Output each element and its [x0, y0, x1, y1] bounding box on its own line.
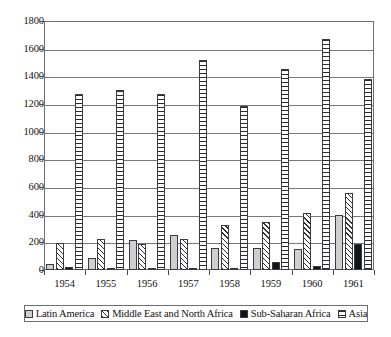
bar — [253, 248, 261, 270]
legend-label: Middle East and North Africa — [112, 308, 233, 319]
legend-swatch-icon — [101, 310, 109, 318]
bar — [221, 225, 229, 270]
y-axis-tick-label: 1600 — [6, 44, 44, 54]
x-axis-tick-mark — [85, 270, 86, 275]
x-axis-tick-mark — [168, 270, 169, 275]
bar — [138, 244, 146, 270]
bar-group — [127, 21, 168, 270]
x-axis: 19541955195619571958195919601961 — [44, 270, 374, 296]
legend-entry[interactable]: Middle East and North Africa — [101, 308, 233, 319]
bar — [354, 244, 362, 270]
bar — [97, 239, 105, 270]
legend-entry[interactable]: Sub-Saharan Africa — [240, 308, 331, 319]
y-axis-tick-label: 200 — [6, 237, 44, 247]
bar-group — [168, 21, 209, 270]
y-axis-tick-label: 1800 — [6, 16, 44, 26]
bar — [262, 222, 270, 270]
bar — [56, 243, 64, 270]
bar — [88, 258, 96, 270]
y-axis-tick-label: 400 — [6, 210, 44, 220]
legend-label: Latin America — [36, 308, 94, 319]
x-axis-tick-mark — [44, 270, 45, 275]
bar — [180, 239, 188, 270]
y-axis-tick-label: 1400 — [6, 71, 44, 81]
bar — [116, 90, 124, 270]
bar — [157, 94, 165, 270]
legend-swatch-icon — [25, 310, 33, 318]
bar-group — [250, 21, 291, 270]
bar-group — [209, 21, 250, 270]
bar-group — [333, 21, 374, 270]
bar-group — [44, 21, 85, 270]
bar — [272, 262, 280, 270]
legend-swatch-icon — [338, 310, 346, 318]
bars-layer — [44, 21, 374, 270]
y-axis-tick-label: 800 — [6, 154, 44, 164]
bar — [129, 240, 137, 270]
bar — [199, 60, 207, 270]
bar — [75, 94, 83, 270]
bar — [281, 69, 289, 270]
legend-label: Sub-Saharan Africa — [251, 308, 331, 319]
bar — [364, 79, 372, 270]
bar — [211, 248, 219, 270]
bar — [240, 106, 248, 270]
chart-legend: Latin AmericaMiddle East and North Afric… — [24, 305, 368, 322]
bar — [322, 39, 330, 270]
y-axis-tick-label: 1000 — [6, 127, 44, 137]
bar — [294, 249, 302, 270]
x-axis-tick-label: 1961 — [329, 278, 377, 290]
bar-group — [85, 21, 126, 270]
y-axis-tick-label: 0 — [6, 265, 44, 275]
x-axis-tick-mark — [374, 270, 375, 275]
x-axis-tick-mark — [333, 270, 334, 275]
bar — [170, 235, 178, 270]
y-axis-tick-label: 1200 — [6, 99, 44, 109]
bar — [345, 193, 353, 270]
y-axis-tick-label: 600 — [6, 182, 44, 192]
y-axis: 020040060080010001200140016001800 — [0, 0, 44, 337]
legend-swatch-icon — [240, 310, 248, 318]
x-axis-tick-mark — [127, 270, 128, 275]
bar-group — [292, 21, 333, 270]
legend-entry[interactable]: Asia — [338, 308, 368, 319]
legend-entry[interactable]: Latin America — [25, 308, 94, 319]
bar — [303, 213, 311, 270]
x-axis-tick-mark — [209, 270, 210, 275]
x-axis-tick-mark — [292, 270, 293, 275]
bar — [335, 215, 343, 270]
x-axis-tick-mark — [250, 270, 251, 275]
bar-chart: 020040060080010001200140016001800 195419… — [0, 0, 391, 337]
legend-label: Asia — [349, 308, 368, 319]
